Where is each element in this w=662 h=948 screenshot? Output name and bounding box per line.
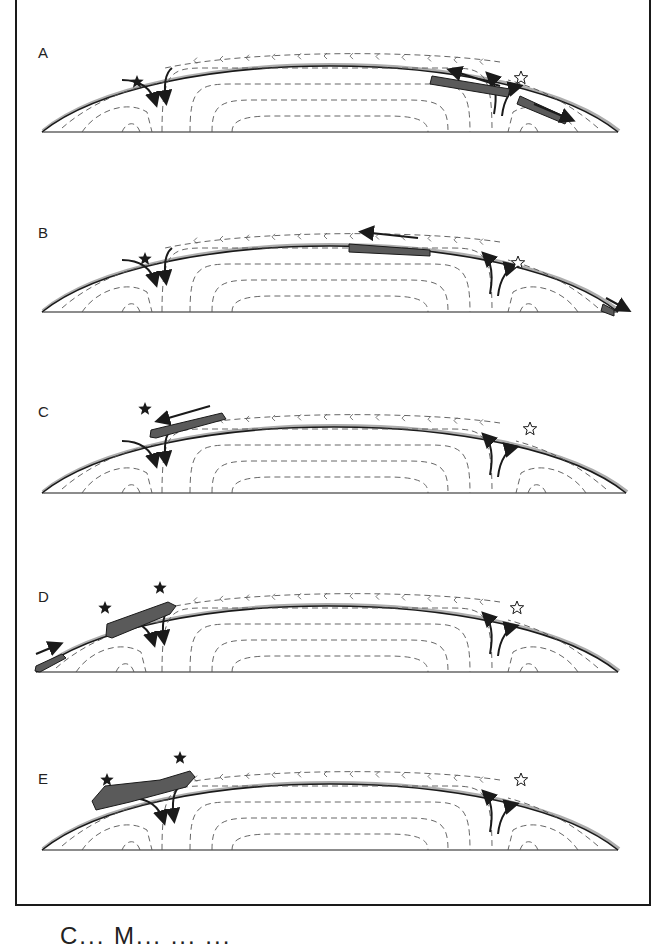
filled-star-icon — [173, 751, 186, 764]
flow-arrow-icon — [428, 416, 431, 422]
flow-arrow-icon — [480, 239, 483, 245]
flow-arrow-icon — [428, 773, 431, 779]
panel-d: D — [0, 560, 662, 740]
flow-arrow-icon — [480, 777, 483, 783]
open-star-icon — [523, 422, 536, 435]
filled-star-icon — [98, 601, 111, 614]
flow-arrow-icon — [402, 594, 405, 600]
panel-e: E — [0, 740, 662, 920]
dome-outline — [42, 427, 626, 493]
open-star-icon — [510, 601, 523, 614]
filled-star-icon — [100, 773, 113, 786]
flow-arrow-icon — [220, 596, 223, 602]
flow-arrow-icon — [272, 415, 275, 421]
flow-arrow-icon — [402, 415, 405, 421]
flow-arrow-icon — [454, 237, 457, 243]
dome-outline — [36, 606, 618, 672]
flow-arrow-icon — [402, 772, 405, 778]
flow-arrow-icon — [220, 236, 223, 242]
plate-motion-arrow-icon — [36, 644, 60, 654]
flow-arrow-icon — [454, 597, 457, 603]
flow-arrow-icon — [402, 54, 405, 60]
filled-star-icon — [138, 402, 151, 415]
flow-arrow-icon — [480, 599, 483, 605]
filled-star-icon — [153, 581, 166, 594]
flow-arrow-icon — [220, 56, 223, 62]
flow-arrow-icon — [428, 235, 431, 241]
panel-a: A — [0, 20, 662, 200]
flow-arrow-icon — [480, 59, 483, 65]
flow-arrow-icon — [272, 54, 275, 60]
figure-caption: C... M... ... ... — [60, 922, 231, 948]
flow-arrow-icon — [272, 594, 275, 600]
dome-outline — [42, 66, 618, 132]
flow-arrow-icon — [272, 234, 275, 240]
flow-arrow-icon — [480, 419, 483, 425]
flow-arrow-icon — [428, 55, 431, 61]
flow-arrow-icon — [376, 414, 379, 420]
flow-arrow-icon — [272, 772, 275, 778]
flow-arrow-icon — [376, 772, 379, 778]
open-star-icon — [514, 773, 527, 786]
panel-b: B — [0, 200, 662, 380]
flow-arrow-icon — [454, 57, 457, 63]
flow-arrow-icon — [220, 774, 223, 780]
flow-arrow-icon — [428, 596, 431, 602]
flow-arrow-icon — [246, 416, 249, 422]
flow-arrow-icon — [376, 594, 379, 600]
panel-c: C — [0, 383, 662, 563]
open-star-icon — [514, 71, 527, 84]
flow-arrow-icon — [376, 54, 379, 60]
flow-arrow-icon — [454, 775, 457, 781]
dome-outline — [42, 246, 618, 312]
